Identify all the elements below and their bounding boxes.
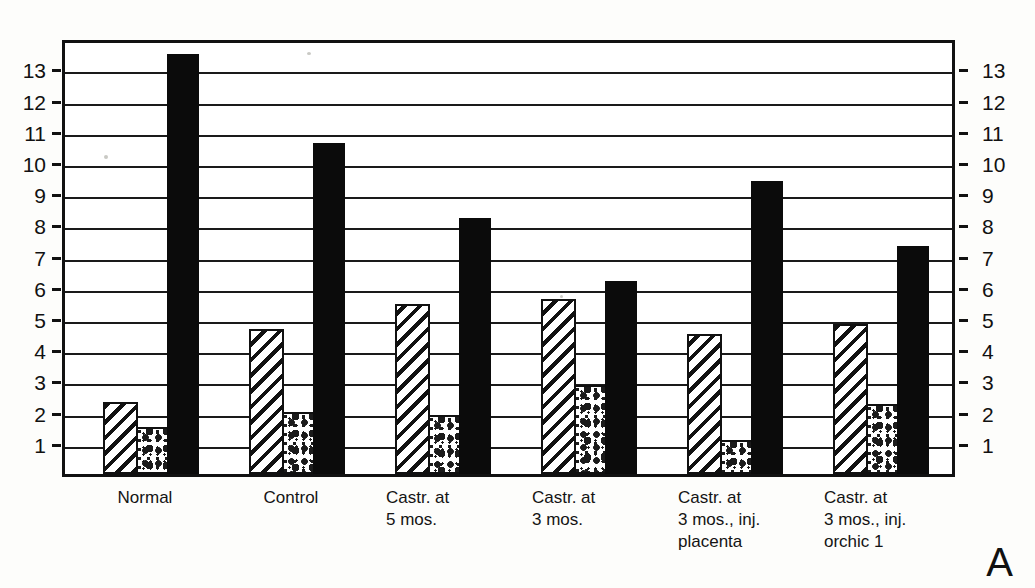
- bar-stippled: [282, 412, 315, 474]
- category-label: Control: [241, 487, 341, 509]
- y-tick-label-right-8: 8: [982, 216, 994, 237]
- bar-group: [541, 43, 641, 474]
- bar-solid-black: [167, 54, 199, 474]
- y-tick-mark-right-2: [959, 413, 968, 416]
- bar-solid-black: [313, 143, 345, 474]
- y-tick-mark-left-4: [52, 350, 61, 353]
- y-tick-label-right-10: 10: [982, 154, 1005, 175]
- y-tick-label-left-12: 12: [23, 92, 46, 113]
- plot-area: [62, 40, 955, 477]
- y-tick-mark-left-7: [52, 257, 61, 260]
- bar-hatched: [103, 402, 138, 474]
- y-tick-mark-left-11: [52, 132, 61, 135]
- y-tick-mark-right-8: [959, 225, 968, 228]
- y-tick-mark-left-9: [52, 194, 61, 197]
- y-axis-right: 13121110987654321: [968, 0, 1028, 588]
- y-tick-mark-left-13: [52, 69, 61, 72]
- y-tick-label-left-13: 13: [23, 60, 46, 81]
- y-tick-mark-left-1: [52, 444, 61, 447]
- y-tick-label-right-6: 6: [982, 279, 994, 300]
- y-tick-label-left-7: 7: [34, 248, 46, 269]
- y-tick-mark-right-10: [959, 163, 968, 166]
- bar-group: [249, 43, 349, 474]
- y-tick-label-left-10: 10: [23, 154, 46, 175]
- bar-group: [395, 43, 495, 474]
- bar-hatched: [541, 299, 576, 474]
- bar-stippled: [136, 427, 169, 474]
- y-tick-label-right-9: 9: [982, 185, 994, 206]
- y-tick-mark-left-6: [52, 288, 61, 291]
- scan-speck: [104, 155, 108, 159]
- bar-hatched: [833, 324, 868, 474]
- y-tick-label-right-1: 1: [982, 435, 994, 456]
- y-tick-mark-right-12: [959, 101, 968, 104]
- y-tick-label-right-3: 3: [982, 372, 994, 393]
- y-tick-mark-right-7: [959, 257, 968, 260]
- bar-group: [687, 43, 787, 474]
- y-tick-label-right-11: 11: [982, 123, 1004, 144]
- category-label: Castr. at 3 mos., inj. placenta: [678, 487, 760, 552]
- bar-stippled: [574, 385, 607, 474]
- bar-group: [833, 43, 933, 474]
- y-tick-mark-right-5: [959, 319, 968, 322]
- y-tick-mark-right-9: [959, 194, 968, 197]
- category-label: Castr. at 5 mos.: [386, 487, 449, 531]
- bar-solid-black: [751, 181, 783, 474]
- bar-hatched: [395, 304, 430, 474]
- y-tick-label-left-5: 5: [34, 310, 46, 331]
- y-tick-mark-left-12: [52, 101, 61, 104]
- category-label: Castr. at 3 mos.: [532, 487, 595, 531]
- scan-speck: [560, 295, 563, 298]
- y-tick-mark-right-11: [959, 132, 968, 135]
- y-tick-label-right-5: 5: [982, 310, 994, 331]
- y-tick-mark-right-1: [959, 444, 968, 447]
- bar-hatched: [687, 334, 722, 474]
- bar-solid-black: [897, 246, 929, 474]
- y-tick-mark-left-8: [52, 225, 61, 228]
- y-tick-mark-left-3: [52, 381, 61, 384]
- y-tick-mark-right-6: [959, 288, 968, 291]
- panel-letter: A: [986, 542, 1013, 582]
- y-tick-mark-left-2: [52, 413, 61, 416]
- y-tick-mark-right-4: [959, 350, 968, 353]
- category-label: Normal: [95, 487, 195, 509]
- y-tick-label-left-1: 1: [34, 435, 46, 456]
- bar-solid-black: [605, 281, 637, 474]
- y-tick-label-left-9: 9: [34, 185, 46, 206]
- y-tick-mark-right-13: [959, 69, 968, 72]
- bar-stippled: [866, 404, 899, 474]
- y-tick-label-left-3: 3: [34, 372, 46, 393]
- y-tick-label-left-2: 2: [34, 404, 46, 425]
- y-tick-label-left-8: 8: [34, 216, 46, 237]
- y-tick-label-left-4: 4: [34, 341, 46, 362]
- y-axis-left: 13121110987654321: [0, 0, 52, 588]
- y-tick-label-right-7: 7: [982, 248, 994, 269]
- y-tick-mark-left-5: [52, 319, 61, 322]
- y-tick-label-left-6: 6: [34, 279, 46, 300]
- y-tick-label-left-11: 11: [24, 123, 46, 144]
- bar-solid-black: [459, 218, 491, 474]
- y-tick-label-right-4: 4: [982, 341, 994, 362]
- y-tick-mark-left-10: [52, 163, 61, 166]
- y-tick-label-right-2: 2: [982, 404, 994, 425]
- bar-hatched: [249, 329, 284, 474]
- scan-speck: [307, 52, 311, 55]
- bar-group: [103, 43, 203, 474]
- y-tick-mark-right-3: [959, 381, 968, 384]
- category-label: Castr. at 3 mos., inj. orchic 1: [824, 487, 906, 552]
- chart-figure: 13121110987654321 13121110987654321 Norm…: [0, 0, 1035, 588]
- bar-stippled: [428, 415, 461, 474]
- y-tick-label-right-13: 13: [982, 60, 1005, 81]
- bar-stippled: [720, 440, 753, 474]
- y-tick-label-right-12: 12: [982, 92, 1005, 113]
